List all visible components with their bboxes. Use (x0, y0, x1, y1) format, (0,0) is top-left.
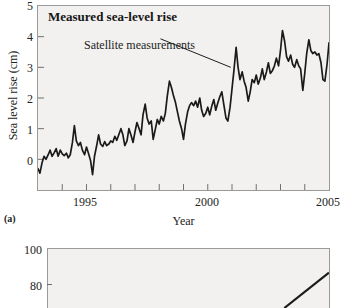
panel-b-partial-chart: 100 80 (0, 236, 346, 295)
annotation-satellite-measurements: Satellite measurements (84, 38, 195, 53)
x-axis-title: Year (37, 214, 330, 229)
panel-b-line (48, 249, 329, 308)
chart-title: Measured sea-level rise (48, 9, 177, 25)
plot-area-b (47, 248, 330, 308)
x-axis-ticks: 1995 2000 2005 (0, 196, 346, 212)
x-tick-label: 2005 (316, 196, 340, 208)
y-tick-label: 5 (5, 0, 33, 12)
y-tick-label-b: 80 (2, 280, 42, 292)
sea-level-line-chart (38, 6, 329, 190)
y-tick-label-b: 100 (2, 244, 42, 256)
y-tick-mark-b (47, 284, 52, 285)
plot-area (37, 5, 330, 191)
panel-letter-a: (a) (4, 213, 16, 224)
x-tick-label: 2000 (195, 196, 219, 208)
y-axis-title: Sea level rise (cm) (6, 21, 21, 171)
x-tick-label: 1995 (73, 196, 97, 208)
panel-a-sea-level-chart: 5 4 3 2 1 0 1995 2000 2005 Year Sea leve… (0, 0, 346, 236)
